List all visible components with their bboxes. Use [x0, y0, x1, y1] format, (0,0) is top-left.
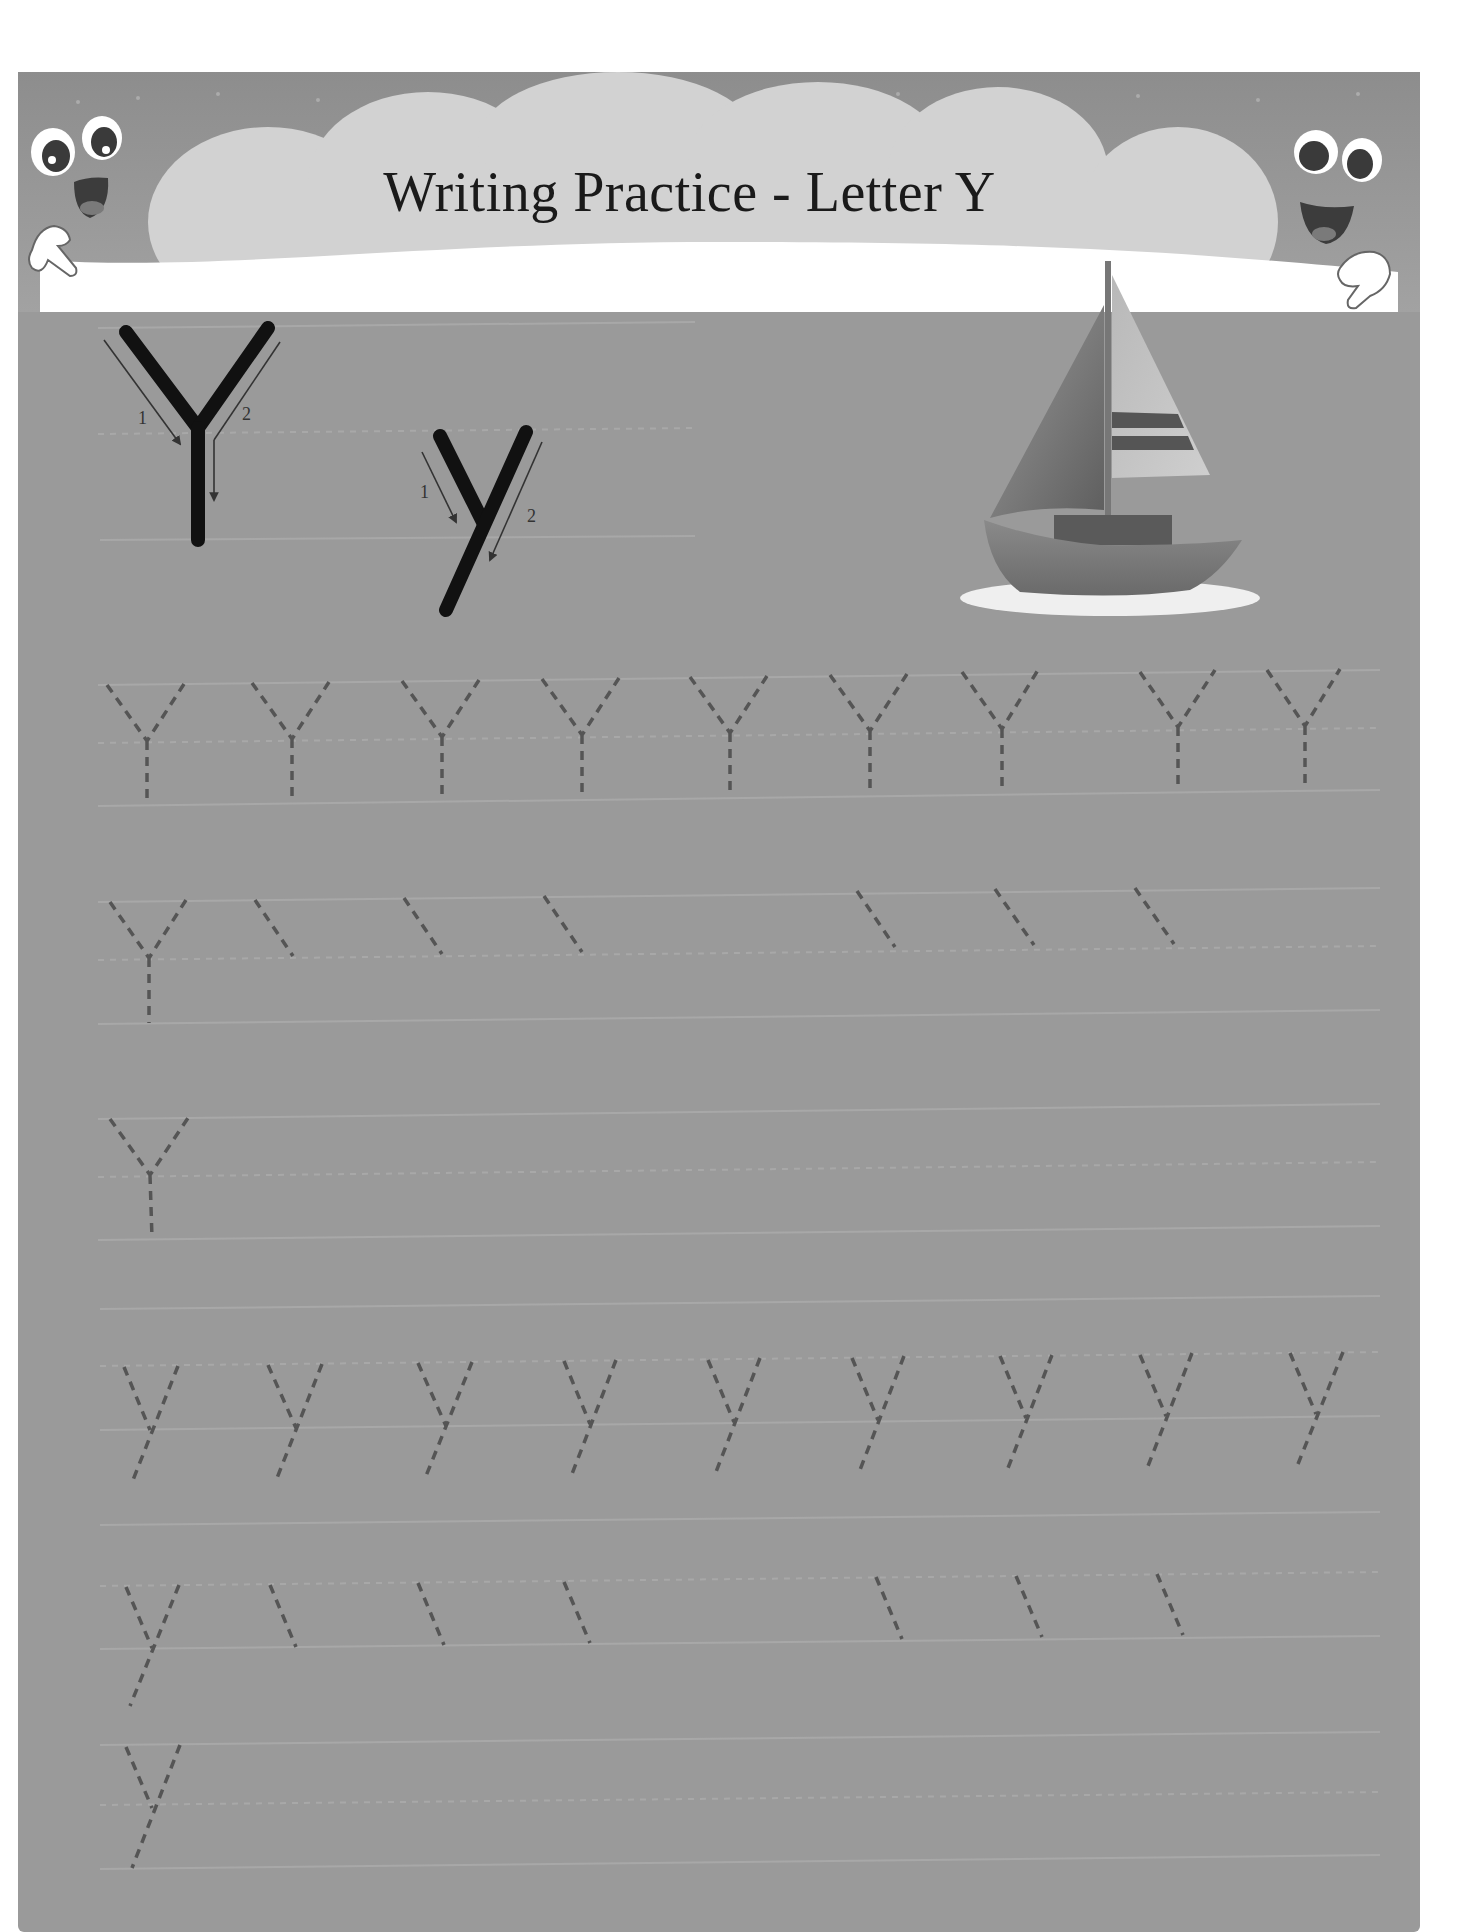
model-guide-lines [98, 322, 695, 540]
practice-row-5 [100, 1512, 1380, 1649]
sailboat-icon [960, 261, 1260, 616]
svg-text:1: 1 [138, 408, 147, 428]
practice-row-3 [98, 1104, 1380, 1240]
svg-text:1: 1 [420, 482, 429, 502]
svg-text:2: 2 [242, 404, 251, 424]
practice-row-2 [98, 888, 1380, 1024]
model-lowercase-y [440, 432, 526, 610]
row-2-letters [110, 888, 1174, 1023]
practice-row-6 [100, 1732, 1380, 1869]
row-6-letters [126, 1745, 180, 1868]
row-1-letters [107, 670, 1215, 805]
svg-text:2: 2 [527, 506, 536, 526]
row-3-letters [110, 1118, 188, 1238]
row-4-letters [124, 1352, 1343, 1480]
